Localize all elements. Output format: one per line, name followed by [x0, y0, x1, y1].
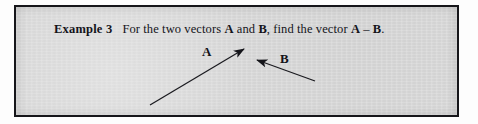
vector-arrows-svg — [16, 7, 459, 117]
vector-label-b: B — [280, 51, 289, 67]
vector-diagram: A B — [16, 7, 459, 117]
page-canvas: Example 3For the two vectors A and B, fi… — [0, 0, 478, 124]
vector-arrow-a — [150, 49, 244, 105]
example-figure-box: Example 3For the two vectors A and B, fi… — [14, 5, 459, 117]
vector-label-a: A — [202, 44, 211, 60]
